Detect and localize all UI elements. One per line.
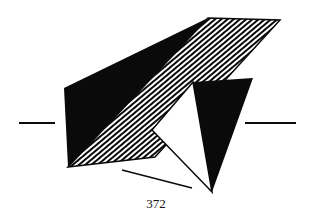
page-number: 372 [0, 196, 312, 212]
figure: 372 [0, 0, 312, 220]
bottom-line [122, 170, 192, 188]
abstract-geometric-drawing [0, 0, 312, 220]
